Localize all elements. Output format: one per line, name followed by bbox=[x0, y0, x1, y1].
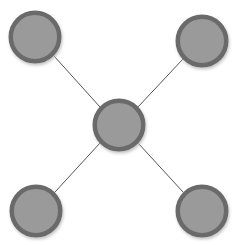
center-hub-node[interactable] bbox=[95, 101, 144, 150]
node-diagram-canvas bbox=[0, 0, 238, 245]
top-left-node[interactable] bbox=[11, 13, 60, 62]
edge-center-to-bottom-right bbox=[138, 143, 183, 192]
edge-center-to-bottom-left bbox=[55, 143, 100, 192]
top-right-node[interactable] bbox=[178, 17, 227, 66]
top-left-node-circle[interactable] bbox=[11, 13, 60, 62]
edge-center-to-top-left bbox=[54, 56, 100, 107]
graph-nodes-layer bbox=[11, 13, 227, 236]
bottom-left-node[interactable] bbox=[12, 187, 61, 236]
graph-svg-root bbox=[0, 0, 238, 245]
bottom-right-node[interactable] bbox=[178, 187, 227, 236]
top-right-node-circle[interactable] bbox=[178, 17, 227, 66]
center-hub-node-circle[interactable] bbox=[95, 101, 144, 150]
bottom-right-node-circle[interactable] bbox=[178, 187, 227, 236]
edge-center-to-top-right bbox=[138, 59, 183, 107]
bottom-left-node-circle[interactable] bbox=[12, 187, 61, 236]
